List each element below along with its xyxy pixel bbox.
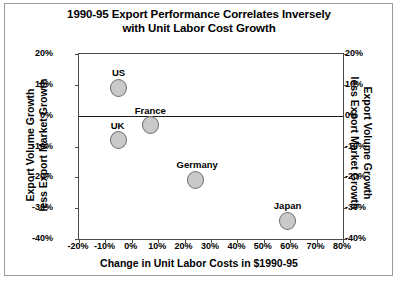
y-tick-mark [75, 85, 79, 86]
y-tick-mark [75, 208, 79, 209]
plot-area: USFranceUKGermanyJapan [78, 53, 344, 240]
y-tick-mark [75, 177, 79, 178]
data-point-label-us: US [112, 67, 125, 78]
x-tick-label: 30% [201, 241, 219, 251]
chart-figure: 1990-95 Export Performance Correlates In… [0, 0, 398, 281]
x-tick-label: 60% [280, 241, 298, 251]
data-point-label-france: France [135, 105, 166, 116]
x-tick-label: 80% [333, 241, 351, 251]
y-axis-title-right-line-2: less Export Market Growth [348, 48, 361, 238]
x-tick-label: 40% [227, 241, 245, 251]
x-tick-label: -20% [67, 241, 88, 251]
y-tick-mark [75, 147, 79, 148]
x-tick-label: 20% [175, 241, 193, 251]
y-axis-title-left-line-2: less Export Market Growth [37, 50, 50, 240]
y-tick-mark [75, 54, 79, 55]
data-point-label-japan: Japan [274, 200, 301, 211]
y-axis-title-right: Export Volume Growth less Export Market … [348, 48, 374, 238]
zero-baseline [79, 116, 343, 117]
data-point-us[interactable] [110, 79, 127, 97]
chart-title-line-2: with Unit Labor Cost Growth [30, 22, 368, 36]
data-point-france[interactable] [142, 116, 159, 134]
x-axis-title: Change in Unit Labor Costs in $1990-95 [0, 257, 398, 269]
x-tick-label: 10% [148, 241, 166, 251]
data-point-uk[interactable] [110, 131, 127, 149]
y-axis-title-left: Export Volume Growth less Export Market … [24, 0, 50, 50]
y-axis-title-left-line-1: Export Volume Growth [24, 50, 37, 240]
chart-title: 1990-95 Export Performance Correlates In… [30, 8, 368, 35]
x-tick-label: 50% [254, 241, 272, 251]
data-point-label-germany: Germany [177, 159, 218, 170]
data-point-label-uk: UK [111, 120, 125, 131]
chart-title-line-1: 1990-95 Export Performance Correlates In… [30, 8, 368, 22]
x-tick-label: 70% [307, 241, 325, 251]
x-tick-label: 0% [124, 241, 137, 251]
data-point-germany[interactable] [187, 171, 204, 189]
data-point-japan[interactable] [279, 212, 296, 230]
y-axis-title-right-line-1: Export Volume Growth [361, 48, 374, 238]
x-tick-label: -10% [94, 241, 115, 251]
